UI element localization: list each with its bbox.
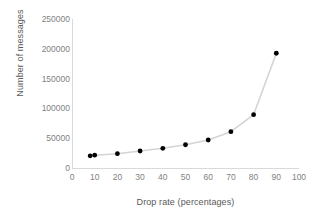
data-point-marker [274, 51, 279, 56]
x-tick-label: 0 [60, 171, 84, 183]
x-axis-tick-labels: 0102030405060708090100 [72, 171, 299, 185]
data-point-marker [88, 153, 93, 158]
x-tick-label: 70 [219, 171, 243, 183]
x-tick-label: 30 [128, 171, 152, 183]
y-tick-label: 200000 [26, 44, 70, 54]
x-axis-line [72, 168, 299, 169]
data-point-marker [206, 138, 211, 143]
y-axis-tick-labels: 050000100000150000200000250000 [26, 14, 70, 174]
data-point-marker [183, 142, 188, 147]
y-axis-title: Number of messages [15, 0, 25, 113]
y-axis-line [72, 19, 73, 169]
x-tick-label: 20 [105, 171, 129, 183]
data-point-marker [115, 151, 120, 156]
x-tick-label: 40 [151, 171, 175, 183]
series-line [90, 53, 276, 156]
data-point-marker [160, 146, 165, 151]
data-point-marker [138, 149, 143, 154]
x-tick-label: 60 [196, 171, 220, 183]
x-tick-label: 10 [83, 171, 107, 183]
data-point-marker [92, 153, 97, 158]
y-tick-label: 50000 [26, 133, 70, 143]
y-tick-label: 150000 [26, 74, 70, 84]
y-tick-label: 100000 [26, 103, 70, 113]
x-tick-label: 50 [174, 171, 198, 183]
chart-container: Number of messages 050000100000150000200… [0, 0, 317, 219]
x-tick-label: 80 [242, 171, 266, 183]
data-point-marker [251, 112, 256, 117]
x-axis-title: Drop rate (percentages) [72, 197, 299, 207]
y-tick-label: 250000 [26, 14, 70, 24]
data-point-marker [229, 129, 234, 134]
x-tick-label: 90 [264, 171, 288, 183]
series-markers [88, 51, 279, 158]
x-tick-label: 100 [287, 171, 311, 183]
